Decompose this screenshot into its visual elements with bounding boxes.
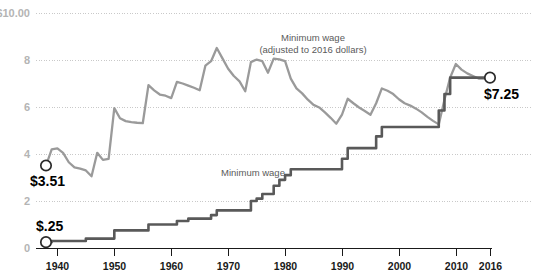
marker-adjusted-end [485, 72, 495, 82]
y-axis-tick-label: 0 [24, 242, 30, 254]
x-axis-tick-labels: 194019501960197019801990200020102016 [46, 260, 503, 272]
annotation-nominal-line: Minimum wage [221, 167, 285, 178]
y-axis-tick-label: 6 [24, 101, 30, 113]
annotation-adjusted-line-1: Minimum wage [281, 32, 345, 43]
marker-adjusted-start [41, 160, 51, 170]
minimum-wage-line-chart: $10.0086420 1940195019601970198019902000… [0, 0, 536, 279]
x-axis-ticks [58, 249, 491, 257]
x-axis-tick-label: 2000 [388, 260, 412, 272]
x-axis-tick-label: 2016 [479, 260, 503, 272]
x-axis-tick-label: 1940 [46, 260, 70, 272]
endpoint-label-adjusted-end: $7.25 [484, 86, 519, 102]
x-axis-tick-label: 1980 [274, 260, 298, 272]
endpoint-label-nominal-start: $.25 [36, 218, 63, 234]
x-axis-tick-label: 1970 [217, 260, 241, 272]
x-axis-tick-label: 1990 [331, 260, 355, 272]
y-axis-tick-label: 8 [24, 54, 30, 66]
series-line-adjusted-wage [46, 48, 490, 176]
x-axis-tick-label: 1950 [103, 260, 127, 272]
annotation-adjusted-line-2: (adjusted to 2016 dollars) [259, 44, 366, 55]
series-line-nominal-wage [46, 78, 490, 243]
x-axis-tick-label: 1960 [160, 260, 184, 272]
endpoint-label-adjusted-start: $3.51 [30, 173, 65, 189]
y-axis-tick-label: $10.00 [0, 7, 30, 19]
y-axis-tick-label: 4 [24, 148, 31, 160]
marker-nominal-start [41, 237, 51, 247]
y-axis-tick-labels: $10.0086420 [0, 7, 31, 254]
chart-canvas: $10.0086420 1940195019601970198019902000… [0, 0, 536, 279]
x-axis-tick-label: 2010 [445, 260, 469, 272]
y-axis-tick-label: 2 [24, 195, 30, 207]
